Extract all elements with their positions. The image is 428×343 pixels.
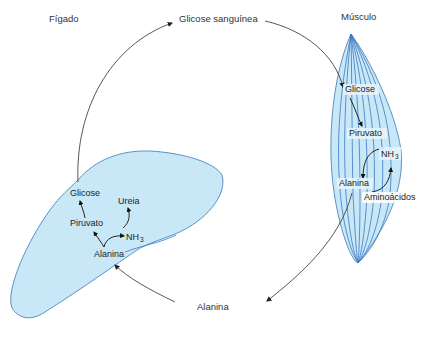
- muscle-alanine-label: Alanina: [339, 178, 369, 188]
- liver-urea-label: Ureia: [118, 196, 140, 206]
- liver-nh3-subscript: 3: [140, 236, 144, 243]
- blood-glucose-label: Glicose sanguínea: [179, 13, 258, 24]
- glucose-alanine-cycle-diagram: Fígado Glicose sanguínea Músculo Alanina…: [0, 0, 428, 343]
- liver-nh3-text: NH: [126, 232, 139, 242]
- blood-alanine-label: Alanina: [197, 301, 229, 312]
- muscle-nh3-subscript: 3: [395, 153, 399, 160]
- liver-alanine-label: Alanina: [94, 249, 124, 259]
- muscle-nh3-text: NH: [381, 149, 394, 159]
- liver-shape: [11, 151, 223, 318]
- muscle-glucose-label: Glicose: [345, 84, 375, 94]
- liver-glucose-label: Glicose: [70, 188, 100, 198]
- liver-pyruvate-label: Piruvato: [70, 218, 103, 228]
- blood-alanine-to-liver-arrow: [115, 265, 175, 302]
- muscle-aminoacids-label: Aminoácidos: [364, 192, 416, 202]
- muscle-pyruvate-label: Piruvato: [349, 128, 382, 138]
- liver-label: Fígado: [49, 13, 79, 24]
- blood-glucose-to-muscle-arrow: [265, 21, 343, 87]
- muscle-label: Músculo: [341, 11, 376, 22]
